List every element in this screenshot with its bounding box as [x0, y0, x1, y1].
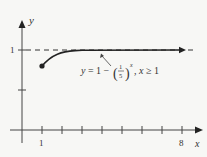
curve-arrow-icon	[179, 47, 186, 53]
x-tick-label-1: 1	[39, 138, 44, 148]
y-axis-arrow-icon	[19, 20, 26, 28]
eq-numerator: 1	[119, 63, 122, 70]
y-tick-label-1: 1	[10, 45, 15, 55]
eq-exponent: x	[129, 62, 133, 68]
chart: y x 1 8 1 y = 1 − ( 1 5 ) x , x ≥ 1	[0, 0, 207, 157]
svg-text:, x ≥ 1: , x ≥ 1	[134, 65, 159, 76]
equation-annotation: y = 1 − ( 1 5 ) x , x ≥ 1	[80, 62, 159, 82]
paren-close: )	[125, 66, 130, 82]
svg-text:y = 1 −: y = 1 −	[80, 65, 112, 76]
function-curve	[42, 50, 180, 66]
x-axis-label: x	[194, 138, 200, 149]
start-point	[39, 63, 44, 68]
x-tick-label-8: 8	[179, 138, 184, 148]
eq-denominator: 5	[119, 72, 122, 79]
y-axis-label: y	[28, 14, 34, 26]
paren-open: (	[113, 66, 118, 82]
x-axis-arrow-icon	[195, 127, 203, 134]
